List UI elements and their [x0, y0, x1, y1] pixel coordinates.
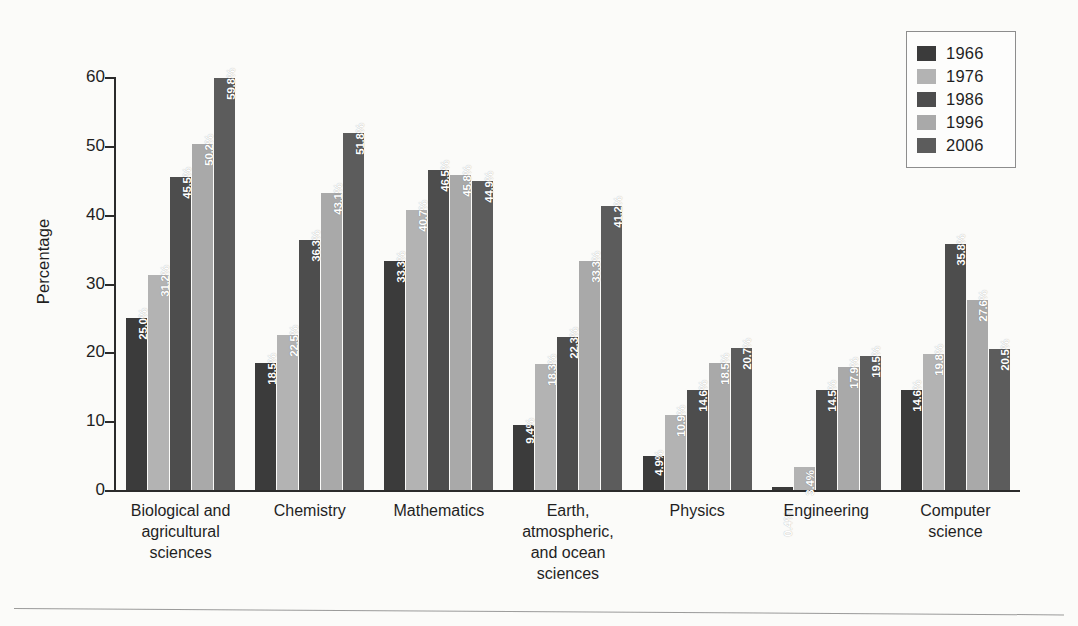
bar[interactable]: 18.3%	[535, 364, 556, 490]
bar[interactable]: 33.3%	[579, 261, 600, 490]
bar-group: 4.9%10.9%14.6%18.5%20.7%	[633, 77, 762, 490]
bar[interactable]: 17.9%	[838, 367, 859, 490]
bar-group: 33.3%40.7%46.5%45.8%44.9%	[374, 77, 503, 490]
bar-value-label: 22.3%	[568, 327, 580, 359]
bar[interactable]: 22.5%	[277, 335, 298, 490]
y-tick-mark	[105, 215, 114, 217]
bar-value-label: 51.8%	[354, 124, 366, 156]
y-tick-mark	[105, 284, 114, 286]
bar[interactable]: 36.3%	[299, 240, 320, 490]
bar-value-label: 31.2%	[159, 265, 171, 297]
bar[interactable]: 22.3%	[557, 337, 578, 490]
bar[interactable]: 25.0%	[126, 318, 147, 490]
bar[interactable]: 35.8%	[945, 244, 966, 490]
bar-value-label: 17.9%	[848, 357, 860, 389]
x-axis-label: Biological andagriculturalsciences	[116, 500, 245, 584]
bar[interactable]: 10.9%	[665, 415, 686, 490]
bar[interactable]: 14.6%	[901, 390, 922, 490]
x-axis-line	[114, 490, 1020, 492]
y-tick-label: 40	[86, 205, 105, 225]
x-axis-label: Engineering	[762, 500, 891, 584]
bar[interactable]: 20.7%	[731, 348, 752, 490]
bar[interactable]: 44.9%	[472, 181, 493, 490]
bar[interactable]: 19.8%	[923, 354, 944, 490]
bar[interactable]: 3.4%	[794, 467, 815, 490]
plot-area: 0102030405060 25.0%31.2%45.5%50.2%59.8%1…	[114, 77, 1020, 492]
bar-group: 0.4%3.4%14.5%17.9%19.5%	[762, 77, 891, 490]
legend: 19661976198619962006	[906, 31, 1016, 168]
y-tick-label: 60	[86, 67, 105, 87]
bar[interactable]: 45.8%	[450, 175, 471, 490]
y-tick-mark	[105, 421, 114, 423]
bar-value-label: 40.7%	[417, 200, 429, 232]
bar-value-label: 27.6%	[977, 290, 989, 322]
y-tick-label: 0	[96, 480, 105, 500]
bar[interactable]: 0.4%	[772, 487, 793, 490]
legend-swatch-icon	[917, 46, 936, 61]
bar[interactable]: 41.2%	[601, 206, 622, 490]
bar-value-label: 45.5%	[181, 167, 193, 199]
legend-item[interactable]: 1976	[917, 65, 1007, 88]
bar-value-label: 4.9%	[653, 450, 665, 475]
bar[interactable]: 20.5%	[989, 349, 1010, 490]
legend-item[interactable]: 1996	[917, 111, 1007, 134]
bar[interactable]: 4.9%	[643, 456, 664, 490]
bar[interactable]: 18.5%	[709, 363, 730, 490]
bar-value-label: 41.2%	[612, 197, 624, 229]
bar-value-label: 46.5%	[439, 160, 451, 192]
bar-value-label: 25.0%	[137, 308, 149, 340]
legend-label: 1986	[946, 90, 984, 109]
y-tick-label: 10	[86, 411, 105, 431]
bar[interactable]: 27.6%	[967, 300, 988, 490]
x-axis-label: Mathematics	[374, 500, 503, 584]
bar-value-label: 14.6%	[911, 380, 923, 412]
bar[interactable]: 9.4%	[513, 425, 534, 490]
bar[interactable]: 50.2%	[192, 144, 213, 490]
bar-value-label: 59.8%	[225, 69, 237, 101]
legend-item[interactable]: 2006	[917, 134, 1007, 157]
bar-value-label: 19.8%	[933, 344, 945, 376]
y-tick-label: 20	[86, 342, 105, 362]
legend-swatch-icon	[917, 138, 936, 153]
x-axis-label: Physics	[633, 500, 762, 584]
legend-swatch-icon	[917, 115, 936, 130]
bar[interactable]: 46.5%	[428, 170, 449, 490]
bar-group: 18.5%22.5%36.3%43.1%51.8%	[245, 77, 374, 490]
bar-value-label: 45.8%	[461, 165, 473, 197]
x-axis-label: Earth,atmospheric,and oceansciences	[503, 500, 632, 584]
bar-value-label: 18.3%	[546, 354, 558, 386]
x-axis-label: Chemistry	[245, 500, 374, 584]
bar-value-label: 35.8%	[955, 234, 967, 266]
bar[interactable]: 31.2%	[148, 275, 169, 490]
legend-swatch-icon	[917, 69, 936, 84]
bar-value-label: 33.3%	[395, 251, 407, 283]
bar[interactable]: 43.1%	[321, 193, 342, 490]
bar-value-label: 20.5%	[999, 339, 1011, 371]
y-tick-label: 50	[86, 136, 105, 156]
bar[interactable]: 40.7%	[406, 210, 427, 490]
bar[interactable]: 14.6%	[687, 390, 708, 490]
bar-value-label: 22.5%	[288, 325, 300, 357]
legend-label: 1976	[946, 67, 984, 86]
bar[interactable]: 59.8%	[214, 78, 235, 490]
bar-value-label: 43.1%	[332, 184, 344, 216]
legend-label: 2006	[946, 136, 984, 155]
bar-groups: 25.0%31.2%45.5%50.2%59.8%18.5%22.5%36.3%…	[116, 77, 1020, 490]
bar-value-label: 20.7%	[741, 338, 753, 370]
bar[interactable]: 19.5%	[860, 356, 881, 490]
bar[interactable]: 45.5%	[170, 177, 191, 490]
bar[interactable]: 51.8%	[343, 133, 364, 490]
y-tick-mark	[105, 352, 114, 354]
bar-value-label: 18.5%	[719, 353, 731, 385]
y-tick-mark	[105, 146, 114, 148]
bar-value-label: 44.9%	[483, 171, 495, 203]
bar-value-label: 50.2%	[203, 135, 215, 167]
bar[interactable]: 14.5%	[816, 390, 837, 490]
bar[interactable]: 33.3%	[384, 261, 405, 490]
legend-item[interactable]: 1986	[917, 88, 1007, 111]
legend-item[interactable]: 1966	[917, 42, 1007, 65]
bar[interactable]: 18.5%	[255, 363, 276, 490]
y-tick-label: 30	[86, 274, 105, 294]
bar-value-label: 14.5%	[826, 380, 838, 412]
legend-label: 1996	[946, 113, 984, 132]
